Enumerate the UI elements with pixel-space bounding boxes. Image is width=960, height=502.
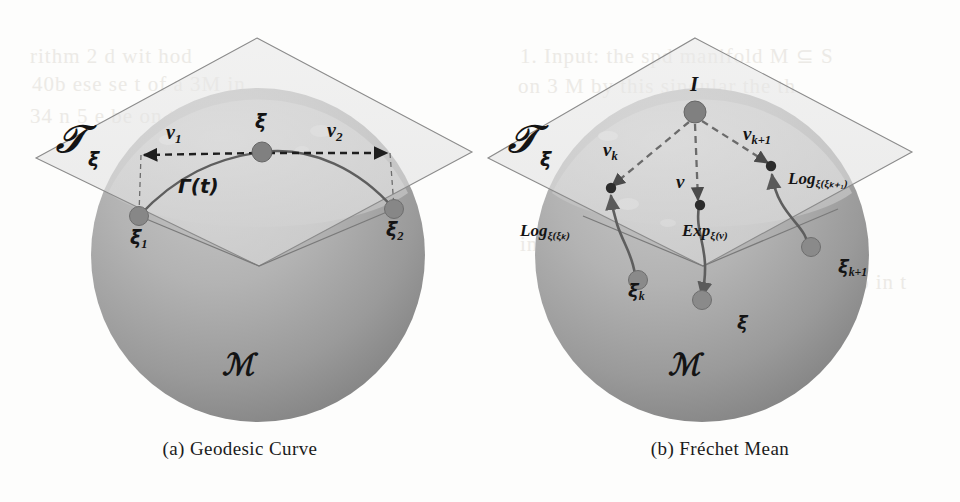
point-xi2-subscript: 2 bbox=[397, 229, 403, 243]
point-marker-xi1 bbox=[130, 207, 149, 226]
caption-panel-b: (b) Fréchet Mean bbox=[480, 438, 960, 460]
log-map-xik-subscript: ξ(ξₖ) bbox=[547, 229, 570, 241]
label-geodesic-gamma: Γ(t) bbox=[178, 176, 219, 196]
log-map-xik-base: Log bbox=[520, 221, 547, 240]
point-identity-base: I bbox=[690, 72, 698, 96]
vector-v2-subscript: 2 bbox=[336, 129, 343, 144]
point-xik1-base: ξ bbox=[838, 256, 849, 277]
label-vector-v1: v1 bbox=[166, 122, 181, 145]
point-marker-v-tip bbox=[695, 200, 705, 210]
vector-vk1-subscript: k+1 bbox=[751, 133, 771, 147]
point-marker-vk1-tip bbox=[766, 161, 776, 171]
exp-map-v-base: Exp bbox=[682, 221, 710, 240]
point-marker-xi2 bbox=[385, 200, 404, 219]
point-xi-base: ξ bbox=[255, 110, 266, 132]
label-vector-vk1: vk+1 bbox=[743, 124, 771, 146]
point-marker-identity bbox=[684, 101, 706, 123]
label-point-xi: ξ bbox=[255, 112, 266, 131]
caption-panel-a: (a) Geodesic Curve bbox=[0, 438, 480, 460]
label-log-map-xik1: Logξ(ξₖ₊₁) bbox=[788, 170, 848, 189]
manifold-symbol-a: ℳ bbox=[222, 350, 254, 380]
frechet-mean-diagram bbox=[480, 0, 960, 440]
point-xik-subscript: k bbox=[639, 289, 645, 303]
label-exp-map-v: Expξ(v) bbox=[682, 222, 728, 241]
label-point-xi2: ξ2 bbox=[386, 220, 404, 242]
label-point-xi-mean: ξ bbox=[737, 314, 748, 332]
tangent-space-symbol-b: 𝒯ξ bbox=[508, 120, 551, 169]
vector-v-base: v bbox=[676, 171, 684, 192]
vector-v1-base: v bbox=[166, 121, 175, 143]
tangent-space-subscript-b: ξ bbox=[540, 150, 551, 169]
tangent-space-subscript-a: ξ bbox=[88, 150, 99, 169]
vector-v2-base: v bbox=[327, 119, 336, 141]
label-log-map-xik: Logξ(ξₖ) bbox=[520, 222, 570, 241]
point-marker-xik1 bbox=[802, 238, 821, 257]
point-xi-mean-base: ξ bbox=[737, 312, 748, 333]
point-xi1-base: ξ bbox=[130, 226, 141, 248]
manifold-symbol-b: ℳ bbox=[668, 350, 700, 380]
label-point-xi1: ξ1 bbox=[130, 228, 148, 250]
vector-v1-subscript: 1 bbox=[175, 131, 182, 146]
figure-page: rithm 2 d wit hod1. Input: the spd manif… bbox=[0, 0, 960, 502]
point-marker-xi-mean bbox=[693, 291, 712, 310]
panel-geodesic-curve: 𝒯ξ ℳ v1 v2 ξ ξ1 ξ2 Γ(t) (a) Geodesic Cur… bbox=[0, 0, 480, 502]
point-marker-xi bbox=[252, 142, 272, 162]
tangent-space-symbol-a: 𝒯ξ bbox=[56, 120, 99, 169]
point-marker-vk-tip bbox=[606, 183, 616, 193]
geodesic-gamma-base: Γ(t) bbox=[178, 174, 219, 198]
label-point-identity: I bbox=[690, 74, 698, 95]
label-point-xik: ξk bbox=[628, 282, 645, 303]
point-xik-base: ξ bbox=[628, 280, 639, 301]
panel-frechet-mean: 𝒯ξ ℳ I vk v vk+1 Logξ(ξₖ) Expξ(v) Logξ(ξ… bbox=[480, 0, 960, 502]
vector-vk-subscript: k bbox=[611, 149, 617, 163]
label-vector-v: v bbox=[676, 172, 684, 191]
label-vector-vk: vk bbox=[603, 140, 618, 162]
point-xi1-subscript: 1 bbox=[141, 237, 147, 251]
point-xik1-subscript: k+1 bbox=[849, 265, 868, 279]
label-vector-v2: v2 bbox=[327, 120, 342, 143]
point-xi2-base: ξ bbox=[386, 218, 397, 240]
exp-map-v-subscript: ξ(v) bbox=[710, 229, 728, 241]
label-point-xik1: ξk+1 bbox=[838, 258, 867, 279]
log-map-xik1-base: Log bbox=[788, 169, 815, 188]
log-map-xik1-subscript: ξ(ξₖ₊₁) bbox=[815, 177, 847, 189]
